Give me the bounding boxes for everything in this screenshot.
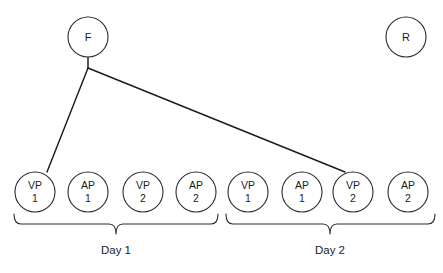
- day-2-brace: [226, 214, 435, 234]
- node-day2-ap1-label-bottom: 1: [299, 192, 305, 204]
- edge-group: [47, 57, 345, 172]
- node-day1-vp2[interactable]: VP 2: [123, 172, 163, 212]
- node-day2-vp2[interactable]: VP 2: [333, 172, 373, 212]
- node-day2-vp2-label-top: VP: [346, 179, 360, 191]
- node-f-label: F: [85, 31, 92, 43]
- group-day-2: Day 2: [226, 214, 435, 256]
- node-day2-ap2[interactable]: AP 2: [388, 172, 428, 212]
- node-f[interactable]: F: [68, 17, 108, 57]
- group-day-1: Day 1: [14, 214, 218, 256]
- node-day1-ap2[interactable]: AP 2: [176, 172, 216, 212]
- node-day2-vp2-label-bottom: 2: [350, 192, 356, 204]
- node-day2-ap1[interactable]: AP 1: [282, 172, 322, 212]
- day-1-brace: [14, 214, 218, 234]
- day-1-label: Day 1: [101, 244, 131, 256]
- node-day1-vp2-label-bottom: 2: [140, 192, 146, 204]
- node-day1-ap1-label-bottom: 1: [85, 192, 91, 204]
- node-day1-ap2-label-bottom: 2: [193, 192, 199, 204]
- node-day2-ap2-label-top: AP: [401, 179, 415, 191]
- edge-f-to-day1-vp1: [47, 68, 88, 172]
- diagram-canvas: F R VP 1 AP 1 VP 2 AP 2: [0, 0, 443, 273]
- node-day2-ap1-label-top: AP: [295, 179, 309, 191]
- node-day2-vp1-label-top: VP: [241, 179, 255, 191]
- node-r[interactable]: R: [386, 17, 426, 57]
- node-r-label: R: [402, 31, 410, 43]
- node-day1-vp1-label-bottom: 1: [32, 192, 38, 204]
- node-day2-vp1-label-bottom: 1: [245, 192, 251, 204]
- node-day1-vp2-label-top: VP: [136, 179, 150, 191]
- node-day1-vp1-label-top: VP: [28, 179, 42, 191]
- node-day2-vp1[interactable]: VP 1: [228, 172, 268, 212]
- node-day1-ap1[interactable]: AP 1: [68, 172, 108, 212]
- day-2-label: Day 2: [315, 244, 345, 256]
- edge-f-to-day2-vp2: [88, 68, 345, 172]
- node-day1-ap2-label-top: AP: [189, 179, 203, 191]
- node-day1-ap1-label-top: AP: [81, 179, 95, 191]
- node-day1-vp1[interactable]: VP 1: [15, 172, 55, 212]
- node-day2-ap2-label-bottom: 2: [405, 192, 411, 204]
- tree-diagram: F R VP 1 AP 1 VP 2 AP 2: [0, 0, 443, 273]
